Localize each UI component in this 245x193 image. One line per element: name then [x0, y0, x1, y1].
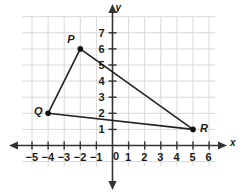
x-tick-label-0: 0: [113, 151, 119, 162]
x-tick-label-4: 4: [173, 152, 179, 163]
point-marker-r: [190, 127, 196, 133]
point-marker-q: [45, 111, 51, 117]
y-tick-label-3: 3: [99, 92, 105, 103]
x-tick-label-5: 5: [190, 152, 196, 163]
y-tick-label-6: 6: [99, 44, 105, 55]
x-tick-label-2: 2: [141, 152, 147, 163]
y-tick-label-4: 4: [99, 76, 105, 87]
coordinate-plane-figure: −5−4−3−2−101234561234567yxPQR: [0, 0, 245, 193]
x-tick-label-1: 1: [125, 152, 131, 163]
y-axis-arrow-down: [108, 181, 116, 190]
y-tick-label-2: 2: [99, 108, 105, 119]
point-label-q: Q: [34, 106, 43, 117]
point-label-r: R: [200, 123, 208, 134]
x-tick-label-neg5: −5: [26, 152, 39, 163]
x-axis-arrow-right: [218, 141, 227, 149]
plotted-points: [45, 46, 196, 132]
segment-pr: [80, 49, 193, 129]
y-axis-label: y: [116, 3, 122, 13]
y-tick-label-1: 1: [99, 124, 105, 135]
y-tick-label-5: 5: [99, 60, 105, 71]
x-tick-label-neg3: −3: [58, 152, 71, 163]
segment-qr: [48, 113, 193, 129]
coordinate-plane-svg: [0, 0, 245, 193]
x-tick-label-neg1: −1: [90, 152, 103, 163]
x-tick-label-neg4: −4: [42, 152, 55, 163]
x-axis-label: x: [230, 138, 236, 148]
point-label-p: P: [67, 34, 74, 45]
x-tick-label-neg2: −2: [74, 152, 87, 163]
triangle-segments: [48, 49, 193, 129]
grid-lines: [22, 17, 215, 167]
y-tick-label-7: 7: [99, 28, 105, 39]
x-tick-label-3: 3: [157, 152, 163, 163]
x-axis-arrow-left: [9, 141, 18, 149]
point-marker-p: [78, 46, 84, 52]
x-tick-label-6: 6: [206, 152, 212, 163]
